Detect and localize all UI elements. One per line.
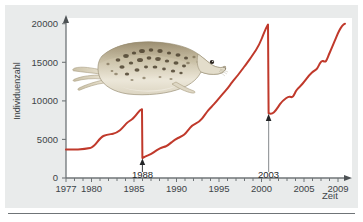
x-tick-label-1990: 1990 — [161, 183, 193, 194]
x-axis-title: Zeit — [322, 190, 338, 201]
y-axis — [63, 15, 69, 178]
annotation-label-2003: 2003 — [252, 169, 285, 180]
bottom-divider — [8, 213, 355, 214]
x-tick-label-2000: 2000 — [246, 183, 278, 194]
y-tick-label-15000: 15000 — [18, 57, 58, 68]
y-tick-label-10000: 10000 — [18, 95, 58, 106]
x-tick-label-2005: 2005 — [288, 183, 320, 194]
figure-container: Individuenzahl 0 5000 10000 15000 20000 … — [0, 0, 363, 222]
x-tick-label-1995: 1995 — [203, 183, 235, 194]
x-tick-label-1985: 1985 — [118, 183, 150, 194]
y-tick-label-5000: 5000 — [24, 134, 58, 145]
annotation-arrow-2003 — [266, 114, 272, 172]
y-tick-label-20000: 20000 — [18, 18, 58, 29]
y-tick-label-0: 0 — [24, 172, 58, 183]
population-curve — [66, 24, 345, 158]
x-tick-label-1980: 1980 — [76, 183, 108, 194]
annotation-label-1988: 1988 — [126, 169, 159, 180]
